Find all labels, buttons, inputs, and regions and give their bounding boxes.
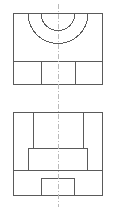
engineering-drawing bbox=[0, 0, 116, 211]
drawing-sheet bbox=[0, 0, 116, 211]
